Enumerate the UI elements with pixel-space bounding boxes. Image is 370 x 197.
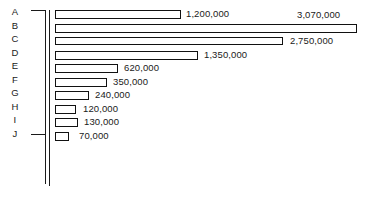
bar-j xyxy=(55,132,69,141)
category-label-e: E xyxy=(0,61,30,71)
category-label-i: I xyxy=(0,115,30,125)
category-label-h: H xyxy=(0,102,30,112)
bar-i xyxy=(55,118,78,127)
bar-f xyxy=(55,78,107,87)
axis-tick-bottom xyxy=(31,134,46,135)
bar-h xyxy=(55,105,76,114)
category-label-d: D xyxy=(0,48,30,58)
bar-value-h: 120,000 xyxy=(83,104,118,114)
bar-d xyxy=(55,51,198,60)
bar-value-b: 3,070,000 xyxy=(297,10,340,20)
category-label-c: C xyxy=(0,34,30,44)
category-label-a: A xyxy=(0,7,30,17)
bar-value-f: 350,000 xyxy=(113,77,148,87)
bar-g xyxy=(55,91,89,100)
category-axis-inner-rule xyxy=(49,10,50,186)
axis-tick-top xyxy=(31,10,46,11)
category-label-f: F xyxy=(0,75,30,85)
bar-value-c: 2,750,000 xyxy=(290,36,333,46)
bar-value-a: 1,200,000 xyxy=(186,9,229,19)
category-label-b: B xyxy=(0,21,30,31)
bar-b xyxy=(55,24,357,33)
bar-value-d: 1,350,000 xyxy=(204,50,247,60)
bar-value-g: 240,000 xyxy=(95,90,130,100)
bar-value-i: 130,000 xyxy=(84,117,119,127)
bar-c xyxy=(55,37,283,45)
bar-chart: A B C D E F G H I J 1,200,000 3,070,000 … xyxy=(0,0,370,197)
bar-a xyxy=(55,10,181,19)
bar-value-j: 70,000 xyxy=(79,131,109,141)
bar-e xyxy=(55,64,118,73)
category-axis-outer-rule xyxy=(45,10,46,184)
category-label-g: G xyxy=(0,88,30,98)
category-label-j: J xyxy=(0,129,30,139)
bar-value-e: 620,000 xyxy=(124,63,159,73)
